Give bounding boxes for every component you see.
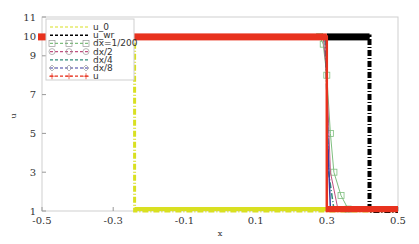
y-axis-label: u: [9, 113, 18, 118]
x-tick-label: -0.5: [32, 215, 51, 226]
legend-box: [46, 19, 134, 80]
legend-label: u: [93, 71, 99, 81]
y-tick-label: 9: [30, 50, 36, 61]
x-axis-label: x: [218, 229, 223, 238]
chart: 1 3 5 7 9 10 11 u -0.5 -0.3 -0.1 0.1 0.3…: [0, 0, 419, 244]
y-tick-label: 3: [30, 167, 36, 178]
series-u-wr-band: [327, 33, 370, 40]
x-tick-label: -0.3: [104, 215, 123, 226]
y-tick-label: 10: [23, 31, 36, 42]
x-tick-label: -0.1: [175, 215, 194, 226]
y-tick-label: 11: [23, 12, 36, 23]
x-tick-label: 0.5: [390, 215, 406, 226]
legend: u_0u_wrdx=1/200dx/2dx/4dx/8u: [46, 19, 138, 81]
series-u-band: [327, 206, 398, 211]
y-tick-label: 7: [30, 89, 36, 100]
y-tick-label: 5: [30, 128, 36, 139]
y-axis: 1 3 5 7 9 10 11 u: [9, 12, 46, 217]
x-tick-label: 0.3: [319, 215, 335, 226]
series-u0-band: [135, 207, 327, 211]
x-tick-label: 0.1: [248, 215, 264, 226]
